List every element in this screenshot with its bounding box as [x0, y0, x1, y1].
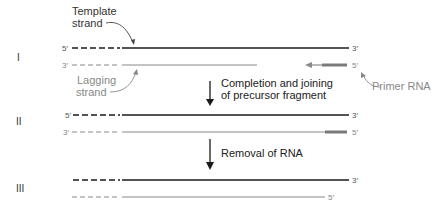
lagging-strand-label-line1: Lagging	[77, 74, 116, 86]
row1-top-5prime: 5′	[62, 44, 68, 53]
template-pointer-curve	[106, 22, 133, 43]
template-strand-label-line1: Template	[72, 5, 117, 17]
row1-top-3prime: 3′	[352, 44, 358, 53]
row1-bottom-3prime: 3′	[62, 61, 68, 70]
row-numeral-iii: III	[16, 183, 24, 194]
primer-pointer-arrowhead	[361, 72, 366, 78]
row2-bottom-5prime: 5′	[352, 128, 358, 137]
step1-arrow-head	[206, 99, 214, 106]
lagging-strand-label-line2: strand	[76, 86, 107, 98]
step1-label-line1: Completion and joining	[221, 77, 333, 89]
row1-bottom-5prime: 5′	[352, 61, 358, 70]
template-pointer-arrowhead	[131, 39, 135, 45]
row2-top-5prime: 5′	[65, 111, 71, 120]
row1-fragment-arrowhead	[305, 62, 312, 68]
row3-bottom-5prime: 5′	[328, 193, 334, 202]
row2-top-3prime: 3′	[352, 111, 358, 120]
primer-rna-label: Primer RNA	[372, 80, 431, 92]
lagging-pointer-arrowhead	[133, 69, 138, 75]
step2-arrow-head	[206, 162, 214, 170]
template-strand-label-line2: strand	[72, 17, 103, 29]
row-numeral-ii: II	[16, 116, 22, 127]
step1-label-line2: of precursor fragment	[221, 89, 326, 101]
dna-replication-diagram: I II III Template strand 5′ 3′ 3′ 5′ Lag…	[0, 0, 443, 212]
row2-bottom-3prime: 3′	[63, 128, 69, 137]
row-numeral-i: I	[17, 52, 20, 63]
step2-label: Removal of RNA	[221, 147, 304, 159]
row3-top-3prime: 3′	[352, 176, 358, 185]
